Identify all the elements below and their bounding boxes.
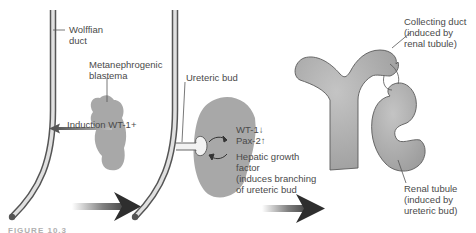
renal-tubule	[372, 83, 425, 171]
figure-caption: FIGURE 10.3	[8, 226, 67, 233]
label-line: Induction WT-1+	[67, 119, 136, 130]
label-line: WT-1↓	[236, 124, 266, 135]
label-line: of ureteric bud	[236, 184, 316, 195]
label-induction: Induction WT-1+	[67, 119, 136, 130]
label-hepatic-growth-factor: Hepatic growth factor (induces branching…	[236, 151, 316, 195]
label-line: ureteric bud)	[404, 205, 457, 216]
label-line: Hepatic growth	[236, 151, 316, 162]
label-line: Ureteric bud	[186, 72, 238, 83]
wolffian-duct-1	[9, 10, 53, 220]
label-line: Collecting duct	[404, 16, 466, 27]
label-line: (induces branching	[236, 173, 316, 184]
label-line: (induced by	[404, 194, 457, 205]
stage-arrow-2	[262, 194, 325, 223]
label-line: blastema	[89, 70, 162, 81]
wolffian-duct-2	[132, 10, 175, 220]
label-line: (induced by	[404, 27, 466, 38]
label-wt1-pax2: WT-1↓ Pax-2↑	[236, 124, 266, 146]
ureteric-bud	[176, 136, 207, 155]
stage-arrow-1	[72, 192, 141, 221]
label-line: Metanephrogenic	[89, 59, 162, 70]
label-line: renal tubule)	[404, 38, 466, 49]
metanephrogenic-blastema	[91, 95, 126, 170]
label-line: factor	[236, 162, 316, 173]
label-metanephrogenic-blastema: Metanephrogenic blastema	[89, 59, 162, 81]
label-wolffian-duct: Wolffian duct	[69, 24, 103, 46]
label-renal-tubule: Renal tubule (induced by ureteric bud)	[404, 183, 457, 216]
label-ureteric-bud: Ureteric bud	[186, 72, 238, 83]
label-line: duct	[69, 35, 103, 46]
label-line: Wolffian	[69, 24, 103, 35]
ureteric-bud-leader-line	[182, 82, 185, 142]
label-collecting-duct: Collecting duct (induced by renal tubule…	[404, 16, 466, 49]
label-line: Renal tubule	[404, 183, 457, 194]
label-line: Pax-2↑	[236, 135, 266, 146]
